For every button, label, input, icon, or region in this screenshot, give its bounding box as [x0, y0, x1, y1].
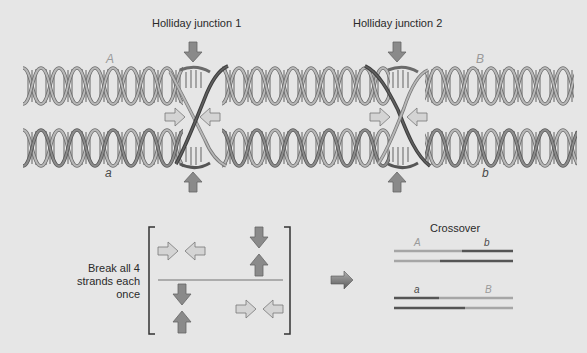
arrow-up-icon: [250, 254, 268, 276]
arrow-up-icon: [388, 172, 406, 192]
crossover-label-b: b: [484, 237, 490, 248]
crossover-title: Crossover: [430, 222, 480, 234]
allele-label-a: a: [105, 166, 112, 180]
top-helix: [23, 66, 574, 106]
bottom-helix: [23, 128, 577, 168]
junction-2-arrows: [370, 42, 427, 192]
arrow-left-icon: [200, 108, 220, 126]
arrow-right-icon: [165, 108, 185, 126]
arrow-up-icon: [184, 172, 202, 192]
arrow-left-icon: [263, 300, 283, 318]
arrow-down-icon: [250, 227, 268, 248]
arrow-right-icon: [236, 300, 256, 318]
allele-label-A: A: [106, 52, 114, 66]
arrow-up-icon: [173, 311, 191, 333]
crossover-products: [394, 251, 513, 308]
arrow-right-icon: [158, 242, 178, 260]
allele-label-b: b: [482, 166, 489, 180]
junction-2-title: Holliday junction 2: [353, 17, 442, 29]
arrow-right-icon: [370, 108, 390, 126]
arrow-down-icon: [184, 42, 202, 62]
arrow-left-icon: [407, 108, 427, 126]
crossover-label-a: a: [414, 284, 420, 295]
junction-1-title: Holliday junction 1: [152, 17, 241, 29]
holliday-junction-diagram: Holliday junction 1 Holliday junction 2 …: [0, 0, 587, 353]
break-note-line-2: strands each: [60, 275, 140, 288]
break-strands-note: Break all 4 strands each once: [60, 262, 140, 301]
crossover-label-B: B: [485, 284, 492, 295]
allele-label-B: B: [476, 52, 484, 66]
arrow-down-icon: [173, 284, 191, 305]
arrow-down-icon: [388, 42, 406, 62]
break-note-line-1: Break all 4: [60, 262, 140, 275]
result-arrow-icon: [331, 271, 353, 289]
crossover-label-A: A: [414, 237, 421, 248]
break-strands-bracket: [149, 227, 290, 334]
arrow-left-icon: [185, 242, 205, 260]
break-note-line-3: once: [60, 288, 140, 301]
